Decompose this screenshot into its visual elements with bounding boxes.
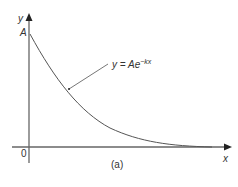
x-axis-label: x — [223, 153, 228, 164]
curve-equation: y = Ae−kx — [112, 58, 151, 70]
x-axis-arrow-icon — [224, 144, 232, 151]
y-axis-label: y — [18, 13, 23, 24]
decay-curve — [30, 34, 212, 147]
label-pointer — [69, 64, 108, 89]
intercept-label: A — [20, 27, 27, 38]
caption: (a) — [111, 159, 123, 170]
pointer-dot — [68, 88, 70, 90]
origin-label: 0 — [21, 148, 27, 159]
curve-equation-exponent: −kx — [140, 58, 151, 65]
y-axis-arrow-icon — [26, 13, 33, 21]
curve-equation-base: y = Ae — [112, 59, 140, 70]
